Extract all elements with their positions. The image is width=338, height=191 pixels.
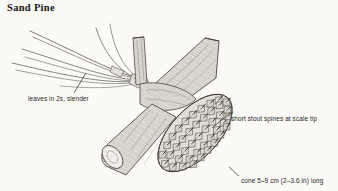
needle-fascicle xyxy=(12,24,141,88)
annotation-spines: short stout spines at scale tip xyxy=(231,115,317,122)
annotation-cone-size: cone 5–9 cm (2–3.6 in) long xyxy=(241,177,323,184)
annotation-leaves: leaves in 2s, slender xyxy=(28,95,89,102)
leader-leaves xyxy=(74,73,86,93)
botanical-plate: Sand Pine leaves in 2s, slender short st… xyxy=(0,0,338,191)
small-bud xyxy=(110,66,124,77)
leader-cone xyxy=(229,167,239,176)
page-title: Sand Pine xyxy=(7,2,55,13)
